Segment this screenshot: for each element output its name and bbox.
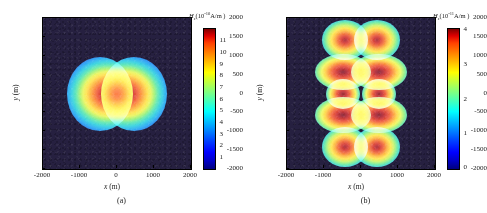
colorbar-mantissa: (10 [439, 12, 448, 19]
x-axis-unit: (m) [353, 182, 364, 191]
colorbar-tick-label: 10 [216, 48, 227, 56]
panel-caption-a: (a) [0, 196, 243, 205]
x-tick-label: 2000 [183, 171, 197, 179]
x-tick-mark [153, 165, 154, 168]
panel-a: 2000 1500 1000 500 0 -500 -1000 -1500 -2… [0, 0, 243, 213]
y-tick-mark [42, 93, 45, 94]
colorbar-tick-label: 4 [216, 118, 223, 126]
colorbar-title-b: Hz(10-11A/m ) [433, 11, 469, 21]
colorbar-b [447, 28, 460, 170]
panel-caption-b: (b) [244, 196, 487, 205]
x-tick-label: -2000 [278, 171, 294, 179]
x-tick-label: 1000 [390, 171, 404, 179]
y-tick-mark [42, 17, 45, 18]
colorbar-title-a: Hz(10-10A/m ) [189, 11, 226, 21]
y-axis-symbol: y [255, 97, 264, 100]
x-axis-symbol: x [104, 182, 107, 191]
y-tick-mark [286, 93, 289, 94]
colorbar-unit: A/m ) [210, 12, 225, 19]
y-tick-mark [42, 74, 45, 75]
contour-lobe-b-r5 [354, 127, 400, 167]
colorbar-a [203, 28, 216, 170]
x-tick-mark [286, 165, 287, 168]
plot-area-a [42, 17, 192, 170]
x-tick-label: 1000 [146, 171, 160, 179]
y-tick-mark [286, 55, 289, 56]
y-axis-symbol: y [11, 97, 20, 100]
y-tick-mark [42, 111, 45, 112]
colorbar-tick-label: 8 [216, 71, 223, 79]
x-tick-mark [360, 165, 361, 168]
x-tick-mark [434, 165, 435, 168]
x-axis-title-b: x (m) [348, 182, 364, 191]
colorbar-tick-label: 2 [460, 95, 467, 103]
y-axis-unit: (m) [11, 84, 20, 95]
y-tick-mark [42, 36, 45, 37]
colorbar-tick-label: 7 [216, 83, 223, 91]
x-axis-symbol: x [348, 182, 351, 191]
colorbar-tick-label: 3 [216, 130, 223, 138]
y-tick-mark [42, 149, 45, 150]
x-tick-mark [323, 165, 324, 168]
x-tick-label: -2000 [34, 171, 50, 179]
colorbar-tick-label: 9 [216, 60, 223, 68]
y-axis-unit: (m) [255, 84, 264, 95]
x-tick-mark [190, 165, 191, 168]
colorbar-tick-label: 2 [216, 141, 223, 149]
x-tick-label: -1000 [71, 171, 87, 179]
y-tick-mark [42, 55, 45, 56]
colorbar-unit: A/m ) [454, 12, 469, 19]
y-tick-mark [286, 130, 289, 131]
colorbar-tick-label: 1 [460, 129, 467, 137]
colorbar-mantissa: (10 [195, 12, 204, 19]
y-tick-mark [286, 36, 289, 37]
x-tick-mark [116, 165, 117, 168]
y-tick-mark [42, 168, 45, 169]
contour-lobe-a-right [101, 57, 167, 131]
x-axis-unit: (m) [109, 182, 120, 191]
colorbar-tick-label: 11 [216, 36, 226, 44]
colorbar-tick-label: 3 [460, 60, 467, 68]
plot-area-b [286, 17, 436, 170]
colorbar-tick-label: 4 [460, 25, 467, 33]
colorbar-tick-label: 6 [216, 95, 223, 103]
y-axis-title-b: y (m) [255, 73, 264, 113]
x-tick-label: 0 [114, 171, 118, 179]
colorbar-tick-label: 5 [216, 106, 223, 114]
y-tick-mark [286, 111, 289, 112]
y-tick-mark [286, 149, 289, 150]
panel-b: 2000 1500 1000 500 0 -500 -1000 -1500 -2… [244, 0, 487, 213]
y-tick-mark [286, 17, 289, 18]
y-tick-mark [286, 74, 289, 75]
x-tick-label: 0 [358, 171, 362, 179]
y-axis-title-a: y (m) [11, 73, 20, 113]
y-tick-mark [286, 168, 289, 169]
x-tick-mark [42, 165, 43, 168]
colorbar-tick-label: 0 [460, 163, 467, 171]
x-tick-mark [79, 165, 80, 168]
x-tick-label: -1000 [315, 171, 331, 179]
y-tick-mark [42, 130, 45, 131]
x-axis-title-a: x (m) [104, 182, 120, 191]
colorbar-tick-label: 1 [216, 153, 223, 161]
figure-contour-pair: 2000 1500 1000 500 0 -500 -1000 -1500 -2… [0, 0, 487, 213]
x-tick-label: 2000 [427, 171, 441, 179]
x-tick-mark [397, 165, 398, 168]
